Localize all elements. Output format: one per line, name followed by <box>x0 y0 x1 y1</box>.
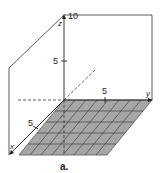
y-axis-label: y <box>145 89 151 98</box>
z-axis-label: z <box>57 19 62 28</box>
y-tick-label-5: 5 <box>102 86 107 96</box>
3d-diagram: 10 5 z 5 y 5 x a. <box>0 0 161 173</box>
x-tick-label-5: 5 <box>28 118 33 128</box>
xy-plane <box>19 100 152 155</box>
z-tick-label-10: 10 <box>68 11 78 21</box>
z-tick-label-5: 5 <box>53 56 58 66</box>
figure-caption: a. <box>60 161 69 172</box>
